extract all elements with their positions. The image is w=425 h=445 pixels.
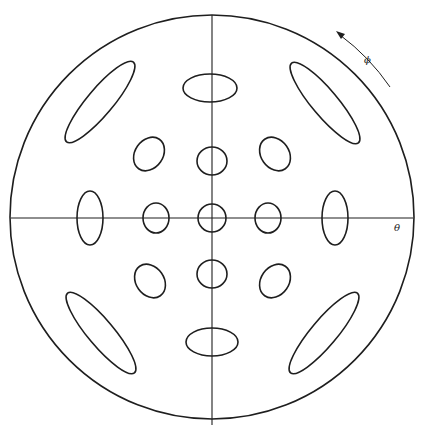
lobe-ellipse-diag-ur xyxy=(253,131,297,177)
lobe-ellipse-outer-ll xyxy=(58,285,145,381)
lobe-ellipse-diag-lr xyxy=(253,258,297,304)
lobe-ellipse-diag-ul xyxy=(127,131,171,177)
polar-diagram: ϕ θ xyxy=(0,0,425,445)
lobe-ellipse-mid-top xyxy=(183,74,237,102)
lobe-ellipse-outer-ur xyxy=(282,55,369,151)
lobe-ellipse-diag-ll xyxy=(128,258,172,304)
theta-label: θ xyxy=(394,222,400,233)
lobe-ellipse-outer-ul xyxy=(57,54,144,150)
lobe-ellipse-outer-lr xyxy=(281,285,368,381)
phi-label: ϕ xyxy=(364,54,371,65)
